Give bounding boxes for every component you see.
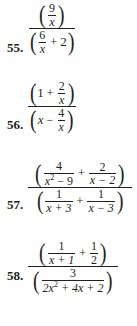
- numerator: ( 9x ): [38, 2, 65, 28]
- denominator: ( 32x2 + 4x + 2 ): [32, 267, 114, 294]
- numerator: ( 1x + 1 + 12 ): [38, 240, 108, 266]
- problem-number: 55.: [7, 40, 23, 56]
- complex-fraction: ( 4x2 − 9 + 2x − 2 ) ( 1x + 3 + 1x − 3 ): [28, 160, 132, 214]
- problem-number: 57.: [7, 197, 23, 213]
- problem-number: 56.: [7, 117, 23, 133]
- denominator: ( x − 4x ): [29, 107, 75, 133]
- complex-fraction: ( 9x ) ( 6x + 2 ): [30, 2, 74, 55]
- denominator: ( 6x + 2 ): [29, 29, 76, 55]
- numerator: ( 4x2 − 9 + 2x − 2 ): [34, 160, 126, 187]
- problem-number: 58.: [7, 268, 23, 284]
- complex-fraction: ( 1 + 2x ) ( x − 4x ): [28, 80, 76, 133]
- numerator: ( 1 + 2x ): [29, 80, 76, 106]
- denominator: ( 1x + 3 + 1x − 3 ): [36, 188, 125, 214]
- complex-fraction: ( 1x + 1 + 12 ) ( 32x2 + 4x + 2 ): [28, 240, 118, 294]
